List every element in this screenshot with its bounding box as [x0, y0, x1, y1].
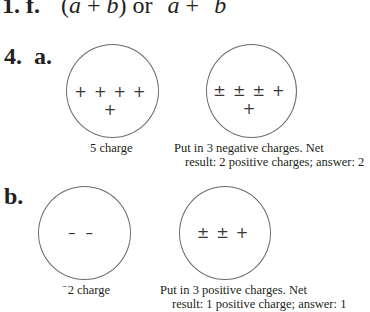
plus-sign: +: [186, 0, 200, 18]
charge-circle-4b-start: ––: [38, 186, 131, 280]
positive-charge-icon: +: [272, 82, 290, 100]
charge-circle-4a-start: +++++: [66, 44, 159, 138]
open-paren: (: [61, 0, 69, 18]
negative-charge-icon: –: [68, 224, 84, 242]
caption-text: 2 charge: [68, 283, 110, 297]
part-a-label: a.: [34, 43, 52, 69]
charge-symbols: ––: [39, 224, 130, 242]
caption-4b-line2: result: 1 positive charge; answer: 1: [172, 297, 346, 311]
positive-charge-icon: +: [236, 224, 254, 242]
positive-charge-icon: +: [243, 100, 261, 118]
variable-b: b: [107, 0, 119, 18]
close-paren: ): [119, 0, 127, 18]
charge-symbols: ±±+: [180, 224, 270, 242]
charge-circle-4b-result: ±±+: [179, 186, 271, 280]
problem-number: 4.: [4, 43, 22, 69]
positive-charge-icon: +: [133, 83, 151, 101]
problem-number: 1.: [2, 0, 20, 18]
charge-circle-4a-result: ±±±++: [206, 44, 297, 138]
caption-4a-line1: Put in 3 negative charges. Net: [174, 141, 324, 155]
caption-4b-line1: Put in 3 positive charges. Net: [160, 283, 307, 297]
problem-part: f.: [26, 0, 40, 18]
caption-4a-line2: result: 2 positive charges; answer: 2: [185, 155, 364, 169]
charge-pair-icon: ±: [253, 82, 271, 100]
charge-pair-icon: ±: [213, 82, 231, 100]
charge-pair-icon: ±: [197, 224, 215, 242]
charge-symbols: +++++: [67, 83, 158, 119]
minus-sign: −: [159, 0, 168, 7]
minus-sign: −: [205, 0, 214, 7]
caption-4a-start: 5 charge: [90, 141, 132, 155]
positive-charge-icon: +: [114, 83, 132, 101]
minus-sign: −: [52, 0, 61, 7]
charge-pair-icon: ±: [216, 224, 234, 242]
minus-sign: −: [62, 281, 68, 292]
variable-a: a: [168, 0, 180, 18]
charge-symbols: ±±±++: [207, 82, 296, 118]
plus-sign: +: [87, 0, 101, 18]
negative-charge-icon: –: [86, 224, 102, 242]
positive-charge-icon: +: [104, 101, 122, 119]
charge-pair-icon: ±: [233, 82, 251, 100]
problem-1-answer: 1. f. −(a + b) or −a + −b: [2, 0, 226, 22]
problem-4-heading: 4. a.: [4, 43, 52, 69]
positive-charge-icon: +: [94, 83, 112, 101]
variable-b: b: [214, 0, 226, 18]
positive-charge-icon: +: [74, 83, 92, 101]
variable-a: a: [69, 0, 81, 18]
part-b-label: b.: [4, 183, 23, 209]
caption-4b-start: −2 charge: [62, 283, 110, 298]
or-word: or: [133, 0, 153, 18]
